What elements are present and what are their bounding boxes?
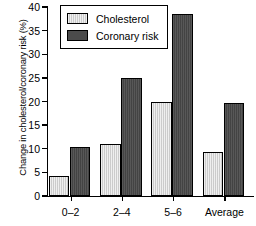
- legend-label-cholesterol: Cholesterol: [96, 13, 149, 25]
- y-axis-tick: [42, 6, 47, 7]
- bar-coronary-risk-0: [70, 147, 91, 196]
- y-axis-tick: [42, 30, 47, 31]
- legend-swatch-cholesterol: [67, 13, 88, 24]
- x-axis-tick: [224, 196, 225, 201]
- y-axis-tick: [42, 124, 47, 125]
- bar-coronary-risk-2: [172, 14, 193, 196]
- y-axis-tick: [42, 77, 47, 78]
- bar-cholesterol-2: [151, 102, 172, 196]
- x-axis-tick-label: 2–4: [113, 206, 131, 218]
- chart-legend: Cholesterol Coronary risk: [60, 5, 168, 49]
- y-axis-tick-label: 25: [28, 72, 40, 84]
- legend-item-coronary-risk: Coronary risk: [67, 27, 158, 44]
- x-axis-tick: [122, 196, 123, 201]
- bar-coronary-risk-1: [121, 78, 142, 196]
- legend-label-coronary-risk: Coronary risk: [96, 30, 158, 42]
- y-axis-tick: [42, 172, 47, 173]
- y-axis-tick-label: 5: [34, 166, 40, 178]
- y-axis-tick-label: 0: [34, 190, 40, 202]
- bar-coronary-risk-3: [224, 103, 245, 196]
- y-axis-title: Change in cholesterol/coronary risk (%): [17, 0, 28, 198]
- y-axis-tick: [42, 148, 47, 149]
- y-axis-tick-label: 15: [28, 119, 40, 131]
- x-axis-tick-label: Average: [205, 206, 244, 218]
- y-axis-tick-label: 40: [28, 1, 40, 13]
- y-axis-tick: [42, 101, 47, 102]
- bar-cholesterol-0: [49, 176, 70, 196]
- bar-chart: Change in cholesterol/coronary risk (%) …: [0, 0, 256, 226]
- x-axis-tick-label: 5–6: [164, 206, 182, 218]
- y-axis-tick-label: 30: [28, 48, 40, 60]
- x-axis-tick: [173, 196, 174, 201]
- y-axis-tick: [42, 195, 47, 196]
- legend-swatch-coronary-risk: [67, 30, 88, 41]
- bar-cholesterol-1: [100, 144, 121, 196]
- x-axis-tick-label: 0–2: [62, 206, 80, 218]
- x-axis-tick: [71, 196, 72, 201]
- y-axis-tick-label: 10: [28, 143, 40, 155]
- legend-item-cholesterol: Cholesterol: [67, 10, 158, 27]
- bar-cholesterol-3: [203, 152, 224, 196]
- y-axis-tick-label: 20: [28, 96, 40, 108]
- y-axis-tick-label: 35: [28, 25, 40, 37]
- y-axis-tick: [42, 54, 47, 55]
